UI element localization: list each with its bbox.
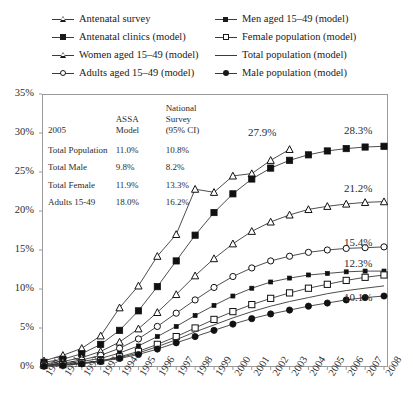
table-col-survey: National Survey (95% CI) — [160, 103, 212, 138]
table-row-survey: 10.8% — [160, 138, 212, 156]
series-value-label: 15.4% — [344, 236, 372, 248]
table-col-assa-l2: Model — [116, 125, 160, 136]
series-value-label: 28.3% — [344, 124, 372, 136]
table-row: Adults 15-49 18.0% 16.2% — [48, 191, 212, 209]
table-col-survey-l1: National — [166, 103, 212, 114]
table-row-assa: 18.0% — [108, 191, 160, 209]
table-row-name: Total Population — [48, 138, 108, 156]
table-row-name: Total Female — [48, 173, 108, 191]
table-row-name: Adults 15-49 — [48, 191, 108, 209]
y-axis-tick-label: 5% — [2, 321, 34, 332]
summary-table: 2005 ASSA Model National Survey (95% CI)… — [48, 103, 212, 208]
y-axis-tick-label: 15% — [2, 243, 34, 254]
table-col-survey-l2: Survey — [166, 114, 212, 125]
table-row-assa: 11.0% — [108, 138, 160, 156]
series-value-label: 10.1% — [344, 291, 372, 303]
series-value-label: 21.2% — [344, 182, 372, 194]
table-year-label: 2005 — [48, 103, 108, 138]
table-row: Total Female 11.9% 13.3% — [48, 173, 212, 191]
series-value-label: 12.3% — [344, 257, 372, 269]
table-col-assa-l1: ASSA — [116, 114, 160, 125]
y-axis-tick-label: 30% — [2, 126, 34, 137]
table-row-assa: 11.9% — [108, 173, 160, 191]
y-axis-tick-label: 35% — [2, 87, 34, 98]
table-row: Total Population 11.0% 10.8% — [48, 138, 212, 156]
series-value-label: 27.9% — [248, 126, 276, 138]
y-axis-tick-label: 10% — [2, 282, 34, 293]
table-col-survey-l3: (95% CI) — [166, 125, 212, 136]
table-row: Total Male 9.8% 8.2% — [48, 156, 212, 174]
table-row-name: Total Male — [48, 156, 108, 174]
table-col-assa: ASSA Model — [108, 103, 160, 138]
table-row-survey: 8.2% — [160, 156, 212, 174]
y-axis-tick-label: 20% — [2, 204, 34, 215]
table-row-assa: 9.8% — [108, 156, 160, 174]
table-row-survey: 16.2% — [160, 191, 212, 209]
y-axis-tick-label: 0% — [2, 360, 34, 371]
y-axis-tick-label: 25% — [2, 165, 34, 176]
table-row-survey: 13.3% — [160, 173, 212, 191]
